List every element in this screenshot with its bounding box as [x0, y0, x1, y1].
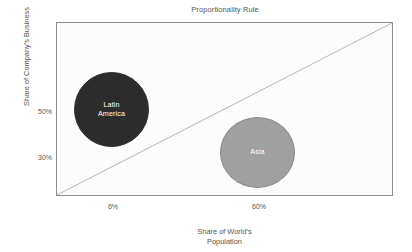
- bubble-latin-america-label: Latin America: [98, 101, 125, 119]
- bubble-asia[interactable]: Asia: [220, 117, 295, 188]
- plot-area: Latin America Asia: [56, 22, 393, 196]
- x-axis-tick-label-6: 6%: [93, 203, 133, 210]
- bubble-latin-america[interactable]: Latin America: [74, 72, 149, 147]
- y-axis-tick-label-50: 50%: [18, 108, 52, 115]
- bubble-asia-label: Asia: [250, 148, 264, 157]
- x-axis-tick-label-60: 60%: [239, 203, 279, 210]
- bubble-latin-america-label-line1: Latin: [103, 100, 119, 109]
- chart-title: Proportionality Rule: [0, 5, 412, 14]
- bubble-latin-america-label-line2: America: [98, 109, 125, 118]
- x-axis-title: Share of World's Population: [56, 227, 393, 247]
- x-axis-title-line1: Share of World's: [56, 227, 393, 237]
- proportionality-rule-chart: Proportionality Rule Share of Company's …: [0, 0, 412, 252]
- chart-title-text: Proportionality Rule: [191, 5, 258, 14]
- x-axis-title-line2: Population: [56, 237, 393, 247]
- y-axis-tick-label-30: 30%: [18, 154, 52, 161]
